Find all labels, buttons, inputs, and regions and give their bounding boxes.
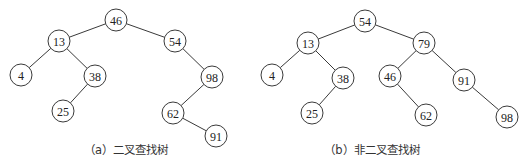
node-label: 38: [337, 72, 349, 86]
node-label: 98: [501, 111, 513, 125]
node-label: 38: [89, 70, 101, 84]
tree-edge: [432, 50, 456, 72]
tree-edge: [397, 84, 418, 107]
tree-node: 98: [201, 66, 223, 88]
tree-node: 98: [496, 106, 518, 128]
tree-node: 38: [332, 67, 354, 89]
node-label: 54: [169, 35, 181, 49]
tree-edge: [69, 24, 105, 37]
node-label: 98: [206, 71, 218, 85]
node-label: 25: [57, 105, 69, 119]
tree-edge: [126, 24, 164, 38]
tree-node: 4: [261, 64, 283, 86]
binary-search-tree: 46135443898256291: [10, 9, 227, 147]
node-label: 46: [110, 14, 122, 28]
node-label: 25: [306, 107, 318, 121]
tree-node: 46: [379, 65, 401, 87]
tree-node: 62: [162, 102, 184, 124]
tree-edge: [375, 25, 413, 39]
tree-edge: [181, 84, 204, 105]
tree-edge: [318, 25, 354, 39]
node-label: 54: [359, 15, 371, 29]
tree-edge: [472, 87, 498, 110]
non-binary-search-tree: 5413794384691256298: [261, 10, 518, 128]
tree-node: 46: [105, 9, 127, 31]
node-label: 79: [418, 37, 430, 51]
tree-diagrams-canvas: 46135443898256291 5413794384691256298: [0, 0, 530, 168]
tree-edge: [183, 49, 204, 70]
tree-node: 38: [84, 65, 106, 87]
tree-node: 4: [10, 64, 32, 86]
tree-node: 13: [297, 32, 319, 54]
tree-node: 54: [354, 10, 376, 32]
tree-edge: [29, 48, 51, 67]
node-label: 46: [384, 70, 396, 84]
node-label: 4: [18, 69, 24, 83]
node-label: 13: [302, 37, 314, 51]
node-label: 13: [53, 35, 65, 49]
tree-edge: [183, 118, 207, 131]
tree-node: 62: [415, 104, 437, 126]
tree-edge: [319, 86, 335, 105]
tree-node: 25: [52, 100, 74, 122]
tree-node: 91: [453, 69, 475, 91]
tree-edge: [398, 51, 416, 69]
node-label: 91: [210, 130, 222, 144]
tree-node: 13: [48, 30, 70, 52]
tree-node: 91: [205, 125, 227, 147]
node-label: 91: [458, 74, 470, 88]
tree-edge: [70, 84, 87, 103]
node-label: 62: [420, 109, 432, 123]
tree-edge: [67, 49, 87, 69]
tree-node: 54: [164, 30, 186, 52]
tree-edge: [316, 51, 335, 70]
tree-node: 25: [301, 102, 323, 124]
tree-edge: [280, 50, 300, 67]
caption-binary-search-tree: （a）二叉查找树: [84, 141, 168, 157]
caption-non-binary-search-tree: （b）非二叉查找树: [324, 141, 419, 157]
node-label: 4: [269, 69, 275, 83]
node-label: 62: [167, 107, 179, 121]
tree-node: 79: [413, 32, 435, 54]
